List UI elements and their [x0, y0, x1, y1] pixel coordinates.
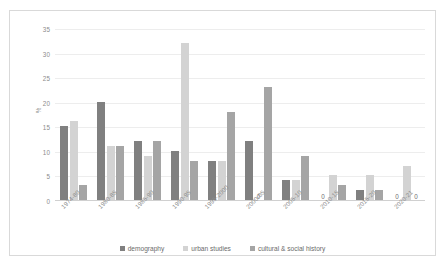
y-axis-tick-label: 30 — [43, 50, 50, 57]
y-axis-tick-label: 15 — [43, 124, 50, 131]
bar-group — [166, 29, 203, 200]
y-axis-title: % — [35, 108, 42, 114]
x-axis-label-cell: 1985-90 — [129, 203, 166, 243]
y-axis-tick-label: 20 — [43, 99, 50, 106]
bar-group: 0 — [314, 29, 351, 200]
plot-area: 05101520253035 0000 — [55, 29, 425, 201]
x-axis-labels: 1974-801980-851985-901990-951995-2000200… — [55, 203, 425, 243]
legend-item[interactable]: urban studies — [183, 245, 231, 252]
legend-label: cultural & social history — [258, 245, 325, 252]
bar-group — [277, 29, 314, 200]
bar[interactable] — [264, 87, 272, 200]
y-axis-tick-label: 5 — [46, 173, 50, 180]
bar-group — [129, 29, 166, 200]
bar[interactable] — [181, 43, 189, 200]
y-axis-tick-label: 0 — [46, 198, 50, 205]
x-axis-label-cell: 2000-05 — [240, 203, 277, 243]
bar[interactable] — [245, 141, 253, 200]
chart-legend: demographyurban studiescultural & social… — [10, 245, 435, 252]
y-axis-tick-label: 35 — [43, 26, 50, 33]
x-axis-label-cell: 2015-20 — [351, 203, 388, 243]
bar-group — [55, 29, 92, 200]
legend-label: demography — [128, 245, 165, 252]
y-axis-tick-label: 25 — [43, 75, 50, 82]
chart-screenshot: % 05101520253035 0000 1974-801980-851985… — [0, 0, 445, 266]
x-axis-label-cell: 2020-21 — [388, 203, 425, 243]
bar[interactable] — [153, 141, 161, 200]
bar-groups: 0000 — [55, 29, 425, 200]
x-axis-label-cell: 1990-95 — [166, 203, 203, 243]
legend-item[interactable]: demography — [120, 245, 165, 252]
y-axis-tick-label: 10 — [43, 148, 50, 155]
bar[interactable] — [171, 151, 179, 200]
legend-label: urban studies — [191, 245, 231, 252]
legend-item[interactable]: cultural & social history — [250, 245, 325, 252]
bar-group — [203, 29, 240, 200]
plot-wrapper: 05101520253035 0000 — [55, 29, 425, 201]
bar-group — [351, 29, 388, 200]
x-axis-label-cell: 1980-85 — [92, 203, 129, 243]
bar[interactable] — [97, 102, 105, 200]
x-axis-label-cell: 1974-80 — [55, 203, 92, 243]
bar-value-label: 0 — [414, 194, 418, 200]
bar[interactable] — [134, 141, 142, 200]
bar-group: 00 — [388, 29, 425, 200]
bar[interactable] — [60, 126, 68, 200]
x-axis-label-cell: 2005-10 — [277, 203, 314, 243]
legend-swatch-icon — [183, 246, 188, 251]
x-axis-label-cell: 1995-2000 — [203, 203, 240, 243]
bar-group: 0 — [240, 29, 277, 200]
legend-swatch-icon — [250, 246, 255, 251]
chart-frame: % 05101520253035 0000 1974-801980-851985… — [9, 10, 436, 256]
legend-swatch-icon — [120, 246, 125, 251]
bar-group — [92, 29, 129, 200]
x-axis-label-cell: 2010-15 — [314, 203, 351, 243]
